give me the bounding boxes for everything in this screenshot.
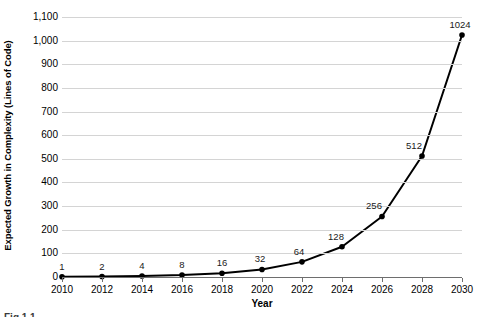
y-axis-tick-label: 600 xyxy=(16,130,58,140)
x-axis-tick-label: 2012 xyxy=(82,284,122,295)
y-axis-tick-label: 100 xyxy=(16,248,58,258)
y-axis-tick-label: 500 xyxy=(16,154,58,164)
x-axis-tick xyxy=(382,278,383,282)
data-point-label: 256 xyxy=(356,201,392,211)
x-axis-tick xyxy=(182,278,183,282)
data-point-label: 512 xyxy=(396,141,432,151)
y-axis-title-text: Expected Growth in Complexity (Lines of … xyxy=(2,40,13,250)
x-axis-tick xyxy=(422,278,423,282)
gridline xyxy=(62,135,462,136)
y-axis-tick-label: 0 xyxy=(16,272,58,282)
series-polyline xyxy=(62,35,462,277)
caption-fragment: Fig 1.1 xyxy=(4,312,36,317)
y-axis-tick-label: 1,000 xyxy=(16,36,58,46)
data-point-marker xyxy=(299,259,305,265)
y-axis-tick-label: 400 xyxy=(16,177,58,187)
y-axis-tick-label: 800 xyxy=(16,83,58,93)
y-axis-tick-label: 700 xyxy=(16,107,58,117)
gridline xyxy=(62,182,462,183)
gridline xyxy=(62,41,462,42)
gridline xyxy=(62,112,462,113)
data-point-marker xyxy=(339,244,345,250)
x-axis-tick-label: 2020 xyxy=(242,284,282,295)
x-axis-tick xyxy=(222,278,223,282)
x-axis-tick xyxy=(462,278,463,282)
data-point-marker xyxy=(219,270,225,276)
data-point-label: 2 xyxy=(84,262,120,272)
x-axis-tick-label: 2014 xyxy=(122,284,162,295)
y-axis-tick-label: 1,100 xyxy=(16,12,58,22)
x-axis-tick xyxy=(102,278,103,282)
gridline xyxy=(62,17,462,18)
x-axis-tick-label: 2026 xyxy=(362,284,402,295)
data-point-label: 16 xyxy=(204,258,240,268)
data-point-label: 8 xyxy=(164,260,200,270)
data-point-marker xyxy=(259,267,265,273)
x-axis-tick-label: 2030 xyxy=(442,284,478,295)
y-axis-tick-label: 300 xyxy=(16,201,58,211)
x-axis-tick-label: 2018 xyxy=(202,284,242,295)
x-axis-tick-label: 2022 xyxy=(282,284,322,295)
data-point-marker xyxy=(459,32,465,38)
gridline xyxy=(62,64,462,65)
series-markers xyxy=(59,32,465,279)
x-axis-tick xyxy=(62,278,63,282)
y-axis-tick-labels: 1,1001,0009008007006005004003002001000 xyxy=(14,0,58,322)
y-axis-tick-label: 200 xyxy=(16,225,58,235)
data-point-label: 32 xyxy=(242,254,278,264)
x-axis-tick xyxy=(342,278,343,282)
data-point-label: 128 xyxy=(318,232,354,242)
gridline xyxy=(62,88,462,89)
gridline xyxy=(62,206,462,207)
data-point-label: 1 xyxy=(44,262,80,272)
y-axis-tick-label: 900 xyxy=(16,59,58,69)
x-axis-tick xyxy=(302,278,303,282)
y-axis-title: Expected Growth in Complexity (Lines of … xyxy=(0,0,14,290)
x-axis-tick-label: 2016 xyxy=(162,284,202,295)
x-axis-tick-label: 2028 xyxy=(402,284,442,295)
x-axis-tick xyxy=(142,278,143,282)
gridline xyxy=(62,230,462,231)
data-point-marker xyxy=(379,214,385,220)
data-point-label: 64 xyxy=(281,247,317,257)
data-point-label: 4 xyxy=(124,261,160,271)
x-axis-tick-label: 2024 xyxy=(322,284,362,295)
gridline xyxy=(62,159,462,160)
data-point-label: 1024 xyxy=(442,20,478,30)
x-axis-title: Year xyxy=(62,298,462,309)
x-axis-tick xyxy=(262,278,263,282)
x-axis-tick-label: 2010 xyxy=(42,284,82,295)
